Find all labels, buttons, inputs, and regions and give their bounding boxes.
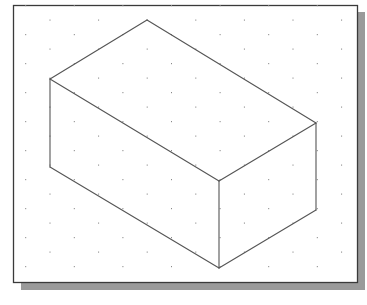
grid-dot: [122, 63, 123, 64]
grid-dot: [74, 208, 75, 209]
grid-dot: [195, 107, 196, 108]
grid-dot: [317, 266, 318, 267]
grid-dot: [341, 49, 342, 50]
grid-dot: [98, 252, 99, 253]
grid-dot: [50, 20, 51, 21]
grid-dot: [50, 252, 51, 253]
grid-dot: [268, 34, 269, 35]
grid-dot: [244, 194, 245, 195]
grid-dot: [147, 78, 148, 79]
grid-dot: [122, 121, 123, 122]
grid-dot: [171, 92, 172, 93]
grid-dot: [195, 252, 196, 253]
drawing-canvas: [0, 0, 367, 305]
grid-dot: [195, 78, 196, 79]
grid-dot: [74, 237, 75, 238]
grid-dot: [220, 208, 221, 209]
grid-dot: [268, 179, 269, 180]
grid-dot: [341, 165, 342, 166]
grid-dot: [98, 78, 99, 79]
drawing-frame: [14, 6, 358, 283]
grid-dot: [195, 136, 196, 137]
grid-dot: [25, 92, 26, 93]
grid-dot: [268, 63, 269, 64]
grid-dot: [317, 208, 318, 209]
grid-dot: [268, 266, 269, 267]
grid-dot: [74, 150, 75, 151]
grid-dot: [317, 150, 318, 151]
grid-dot: [244, 107, 245, 108]
grid-dot: [25, 121, 26, 122]
grid-dot: [171, 266, 172, 267]
grid-dot: [25, 266, 26, 267]
grid-dot: [244, 223, 245, 224]
grid-dot: [195, 165, 196, 166]
grid-dot: [293, 78, 294, 79]
grid-dot: [195, 194, 196, 195]
grid-dot: [147, 194, 148, 195]
grid-dot: [122, 208, 123, 209]
grid-dot: [171, 150, 172, 151]
grid-dot: [74, 34, 75, 35]
grid-dot: [293, 20, 294, 21]
grid-dot: [25, 150, 26, 151]
grid-dot: [122, 237, 123, 238]
grid-dot: [122, 5, 123, 6]
grid-dot: [317, 179, 318, 180]
grid-dot: [171, 179, 172, 180]
grid-dot: [147, 49, 148, 50]
grid-dot: [341, 252, 342, 253]
grid-dot: [25, 34, 26, 35]
grid-dot: [317, 63, 318, 64]
grid-dot: [122, 266, 123, 267]
grid-dot: [98, 165, 99, 166]
grid-dot: [171, 5, 172, 6]
grid-dot: [122, 179, 123, 180]
grid-dot: [147, 165, 148, 166]
grid-dot: [171, 208, 172, 209]
grid-dot: [293, 194, 294, 195]
grid-dot: [74, 266, 75, 267]
grid-dot: [317, 34, 318, 35]
grid-dot: [74, 5, 75, 6]
grid-dot: [293, 49, 294, 50]
grid-dot: [50, 223, 51, 224]
grid-dot: [244, 49, 245, 50]
grid-dot: [220, 34, 221, 35]
grid-dot: [74, 179, 75, 180]
grid-dot: [268, 92, 269, 93]
grid-dot: [74, 121, 75, 122]
grid-dot: [25, 179, 26, 180]
grid-dot: [25, 5, 26, 6]
grid-dot: [195, 223, 196, 224]
grid-dot: [317, 237, 318, 238]
grid-dot: [220, 5, 221, 6]
grid-dot: [147, 252, 148, 253]
grid-dot: [220, 237, 221, 238]
grid-dot: [317, 121, 318, 122]
grid-dot: [25, 63, 26, 64]
grid-dot: [122, 92, 123, 93]
grid-dot: [50, 194, 51, 195]
grid-dot: [147, 107, 148, 108]
grid-dot: [122, 150, 123, 151]
grid-dot: [317, 92, 318, 93]
grid-dot: [25, 208, 26, 209]
grid-dot: [98, 194, 99, 195]
grid-dot: [195, 20, 196, 21]
grid-dot: [220, 150, 221, 151]
grid-dot: [147, 223, 148, 224]
grid-dot: [220, 92, 221, 93]
grid-dot: [341, 107, 342, 108]
grid-dot: [341, 78, 342, 79]
grid-dot: [293, 252, 294, 253]
grid-dot: [25, 237, 26, 238]
grid-dot: [244, 136, 245, 137]
grid-dot: [268, 5, 269, 6]
grid-dot: [341, 194, 342, 195]
grid-dot: [341, 223, 342, 224]
grid-dot: [98, 20, 99, 21]
grid-dot: [171, 63, 172, 64]
grid-dot: [220, 121, 221, 122]
grid-dot: [171, 121, 172, 122]
